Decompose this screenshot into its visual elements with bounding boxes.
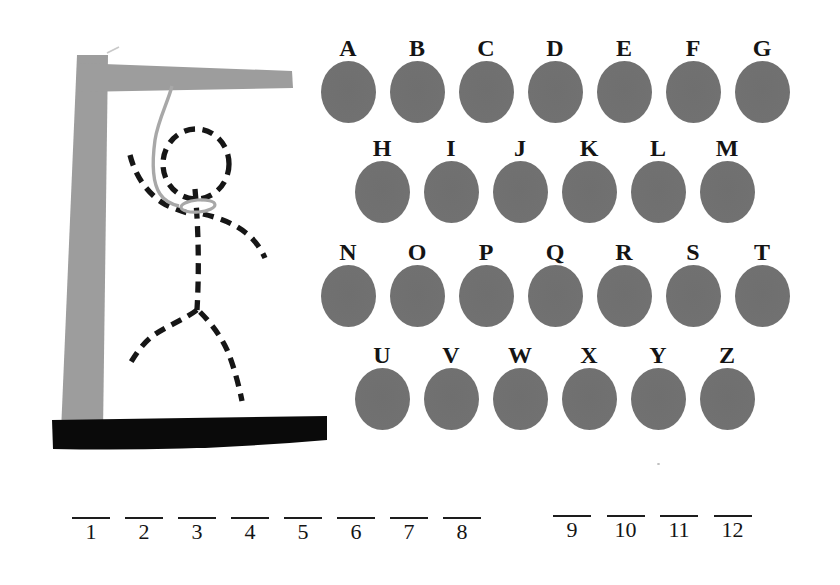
letter-cover-oval-d[interactable] <box>528 61 583 123</box>
letter-cover-oval-l[interactable] <box>631 161 686 223</box>
letter-label-w: W <box>508 343 532 367</box>
letter-key-n[interactable]: N <box>317 240 379 327</box>
noose-loop <box>181 199 216 214</box>
letter-key-v[interactable]: V <box>420 343 482 430</box>
letter-key-t[interactable]: T <box>731 240 793 327</box>
hangman-left-leg <box>131 310 197 362</box>
letter-cover-oval-o[interactable] <box>390 265 445 327</box>
letter-label-b: B <box>409 36 425 60</box>
letter-key-l[interactable]: L <box>627 136 689 223</box>
answer-slot-8: 8 <box>443 517 481 542</box>
letter-cover-oval-e[interactable] <box>597 61 652 123</box>
hangman-left-arm <box>130 155 188 213</box>
hangman-right-leg <box>200 312 242 401</box>
letter-cover-oval-a[interactable] <box>321 61 376 123</box>
letter-label-x: X <box>580 343 597 367</box>
letter-cover-oval-y[interactable] <box>631 368 686 430</box>
letter-key-f[interactable]: F <box>662 36 724 123</box>
letter-key-m[interactable]: M <box>696 136 758 223</box>
letter-label-q: Q <box>546 240 565 264</box>
answer-slot-9: 9 <box>553 515 591 540</box>
letter-key-p[interactable]: P <box>455 240 517 327</box>
letter-key-x[interactable]: X <box>558 343 620 430</box>
answer-slot-2: 2 <box>125 517 163 542</box>
letter-label-f: F <box>686 36 701 60</box>
letter-cover-oval-t[interactable] <box>735 265 790 327</box>
letter-cover-oval-r[interactable] <box>597 265 652 327</box>
slot-number-8: 8 <box>457 522 468 542</box>
letter-cover-oval-w[interactable] <box>493 368 548 430</box>
letter-key-d[interactable]: D <box>524 36 586 123</box>
answer-slot-7: 7 <box>390 517 428 542</box>
letter-cover-oval-f[interactable] <box>666 61 721 123</box>
letter-cover-oval-q[interactable] <box>528 265 583 327</box>
letter-key-s[interactable]: S <box>662 240 724 327</box>
letter-row-3: N O P Q R S T <box>317 240 793 327</box>
letter-cover-oval-c[interactable] <box>459 61 514 123</box>
letter-cover-oval-n[interactable] <box>321 265 376 327</box>
letter-label-g: G <box>753 36 772 60</box>
letter-cover-oval-i[interactable] <box>424 161 479 223</box>
hangman-figure <box>130 129 265 401</box>
letter-cover-oval-h[interactable] <box>355 161 410 223</box>
letter-key-q[interactable]: Q <box>524 240 586 327</box>
letter-cover-oval-b[interactable] <box>390 61 445 123</box>
letter-label-s: S <box>686 240 699 264</box>
letter-key-z[interactable]: Z <box>696 343 758 430</box>
slot-number-4: 4 <box>245 522 256 542</box>
letter-cover-oval-m[interactable] <box>700 161 755 223</box>
letter-cover-oval-k[interactable] <box>562 161 617 223</box>
letter-label-u: U <box>373 343 390 367</box>
answer-slot-5: 5 <box>284 517 322 542</box>
letter-cover-oval-z[interactable] <box>700 368 755 430</box>
letter-cover-oval-j[interactable] <box>493 161 548 223</box>
letter-cover-oval-u[interactable] <box>355 368 410 430</box>
slot-number-2: 2 <box>139 522 150 542</box>
letter-key-y[interactable]: Y <box>627 343 689 430</box>
letter-cover-oval-v[interactable] <box>424 368 479 430</box>
hangman-game-screen: A B C D E F G H <box>0 0 840 585</box>
letter-key-r[interactable]: R <box>593 240 655 327</box>
answer-slot-4: 4 <box>231 517 269 542</box>
letter-row-1: A B C D E F G <box>317 36 793 123</box>
letter-key-h[interactable]: H <box>351 136 413 223</box>
letter-label-z: Z <box>719 343 735 367</box>
slot-number-9: 9 <box>567 520 578 540</box>
letter-key-e[interactable]: E <box>593 36 655 123</box>
scan-speck <box>657 463 660 465</box>
hangman-body <box>195 189 198 310</box>
letter-key-w[interactable]: W <box>489 343 551 430</box>
letter-key-a[interactable]: A <box>317 36 379 123</box>
pen-mark <box>107 47 119 53</box>
letter-label-j: J <box>514 136 526 160</box>
letter-key-g[interactable]: G <box>731 36 793 123</box>
letter-cover-oval-x[interactable] <box>562 368 617 430</box>
letter-key-o[interactable]: O <box>386 240 448 327</box>
letter-label-r: R <box>615 240 632 264</box>
hangman-right-arm <box>203 214 265 258</box>
slot-number-3: 3 <box>192 522 203 542</box>
answer-slot-11: 11 <box>660 515 698 540</box>
gallows-post <box>61 55 108 432</box>
letter-label-t: T <box>754 240 770 264</box>
letter-label-y: Y <box>649 343 666 367</box>
hangman-head <box>163 129 229 199</box>
letter-label-m: M <box>716 136 739 160</box>
answer-slot-3: 3 <box>178 517 216 542</box>
answer-slot-6: 6 <box>337 517 375 542</box>
letter-cover-oval-p[interactable] <box>459 265 514 327</box>
letter-key-i[interactable]: I <box>420 136 482 223</box>
answer-blanks-word-1: 1 2 3 4 5 6 7 8 <box>72 517 481 542</box>
letter-label-l: L <box>650 136 666 160</box>
slot-number-5: 5 <box>298 522 309 542</box>
letter-label-p: P <box>479 240 494 264</box>
letter-key-c[interactable]: C <box>455 36 517 123</box>
letter-label-i: I <box>446 136 455 160</box>
letter-key-b[interactable]: B <box>386 36 448 123</box>
gallows-beam <box>77 63 293 92</box>
letter-cover-oval-s[interactable] <box>666 265 721 327</box>
letter-cover-oval-g[interactable] <box>735 61 790 123</box>
letter-key-u[interactable]: U <box>351 343 413 430</box>
letter-key-k[interactable]: K <box>558 136 620 223</box>
letter-key-j[interactable]: J <box>489 136 551 223</box>
